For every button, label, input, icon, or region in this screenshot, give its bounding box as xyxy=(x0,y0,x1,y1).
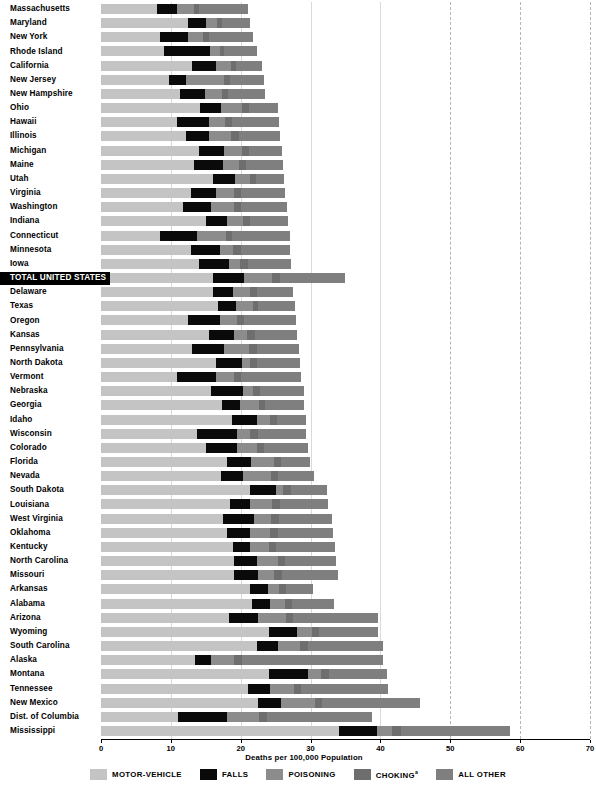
bar-segment-all-other xyxy=(241,245,291,255)
bar-segment-all-other xyxy=(230,75,264,85)
bar-segment-all-other xyxy=(285,556,336,566)
bar-segment-choking xyxy=(253,386,261,396)
category-label-row: Maine xyxy=(0,158,99,172)
x-axis-title-text: Deaths per 100,000 Population xyxy=(245,753,362,762)
bar-segment-falls xyxy=(209,330,234,340)
legend-swatch xyxy=(436,769,453,780)
category-label-row: South Dakota xyxy=(0,483,99,497)
bar-row xyxy=(101,2,590,16)
bar-segment-all-other xyxy=(258,301,295,311)
bar-segment-falls xyxy=(216,358,242,368)
bar-segment-choking xyxy=(231,131,239,141)
bar-segment-falls xyxy=(227,528,250,538)
bar-segment-choking xyxy=(234,372,241,382)
category-label: Virginia xyxy=(0,188,41,198)
bar-segment-poisoning xyxy=(216,188,235,198)
bar-segment-all-other xyxy=(279,514,331,524)
category-label-row: Oklahoma xyxy=(0,526,99,540)
bar-segment-falls xyxy=(191,188,215,198)
bar-segment-poisoning xyxy=(243,386,253,396)
bar-segment-falls xyxy=(227,457,251,467)
stacked-bar xyxy=(101,117,279,127)
tick-mark-60 xyxy=(520,740,521,743)
bar-segment-all-other xyxy=(267,712,372,722)
legend-label: POISONING xyxy=(288,770,335,779)
category-label-row: Nebraska xyxy=(0,384,99,398)
category-label-row: Virginia xyxy=(0,186,99,200)
bar-segment-motor-vehicle xyxy=(101,287,213,297)
bar-segment-choking xyxy=(239,160,246,170)
category-label-row: Mississippi xyxy=(0,724,99,738)
bar-segment-motor-vehicle xyxy=(101,499,230,509)
bar-row xyxy=(101,625,590,639)
stacked-bar xyxy=(101,301,295,311)
bar-segment-poisoning xyxy=(188,32,203,42)
category-label: Minnesota xyxy=(0,245,51,255)
category-label: Alaska xyxy=(0,655,37,665)
bar-segment-falls xyxy=(222,400,240,410)
bar-segment-falls xyxy=(232,415,258,425)
bar-segment-motor-vehicle xyxy=(101,259,199,269)
category-label-row: Arizona xyxy=(0,611,99,625)
bar-segment-motor-vehicle xyxy=(101,712,178,722)
bar-segment-poisoning xyxy=(297,627,312,637)
stacked-bar xyxy=(101,32,253,42)
bar-segment-poisoning xyxy=(186,75,224,85)
bar-segment-motor-vehicle xyxy=(101,216,206,226)
bar-segment-all-other xyxy=(280,499,328,509)
bar-row xyxy=(101,427,590,441)
stacked-bar xyxy=(101,75,264,85)
category-label: Tennessee xyxy=(0,684,53,694)
bar-segment-poisoning xyxy=(237,443,258,453)
legend-item: ALL OTHER xyxy=(436,769,506,780)
stacked-bar xyxy=(101,726,510,736)
category-label-row: New Jersey xyxy=(0,73,99,87)
stacked-bar xyxy=(101,415,306,425)
bar-segment-falls xyxy=(269,627,297,637)
bar-segment-falls xyxy=(206,216,228,226)
tick-mark-70 xyxy=(590,740,591,743)
bar-segment-falls xyxy=(200,103,221,113)
bar-segment-motor-vehicle xyxy=(101,75,169,85)
bar-row xyxy=(101,455,590,469)
tick-mark-30 xyxy=(311,740,312,743)
bar-segment-all-other xyxy=(291,485,327,495)
category-label-row: TOTAL UNITED STATES xyxy=(0,271,99,285)
bar-segment-motor-vehicle xyxy=(101,146,199,156)
bar-rows xyxy=(101,2,590,738)
stacked-bar xyxy=(101,669,387,679)
category-label-row: Tennessee xyxy=(0,682,99,696)
stacked-bar xyxy=(101,259,291,269)
bar-segment-motor-vehicle xyxy=(101,599,252,609)
stacked-bar xyxy=(101,556,336,566)
bar-segment-choking xyxy=(321,669,329,679)
bar-segment-poisoning xyxy=(254,514,271,524)
legend-item: MOTOR-VEHICLE xyxy=(90,769,182,780)
bar-segment-falls xyxy=(213,287,233,297)
bar-segment-falls xyxy=(178,712,227,722)
category-label: Utah xyxy=(0,174,29,184)
category-label-row: Ohio xyxy=(0,101,99,115)
bar-segment-all-other xyxy=(255,330,298,340)
bar-segment-poisoning xyxy=(377,726,392,736)
bar-segment-poisoning xyxy=(250,499,272,509)
bar-segment-motor-vehicle xyxy=(101,103,200,113)
category-label-row: Indiana xyxy=(0,214,99,228)
bar-segment-all-other xyxy=(256,174,284,184)
bar-segment-falls xyxy=(197,429,236,439)
bar-row xyxy=(101,497,590,511)
bar-segment-choking xyxy=(269,542,276,552)
bar-row xyxy=(101,229,590,243)
category-label-row: North Carolina xyxy=(0,554,99,568)
category-label-row: Kentucky xyxy=(0,540,99,554)
bar-segment-all-other xyxy=(244,315,296,325)
category-label: Massachusetts xyxy=(0,4,70,14)
stacked-bar xyxy=(101,273,345,283)
bar-segment-motor-vehicle xyxy=(101,542,233,552)
bar-row xyxy=(101,16,590,30)
bar-segment-poisoning xyxy=(257,556,279,566)
bar-row xyxy=(101,611,590,625)
stacked-bar xyxy=(101,146,282,156)
category-label: New Hampshire xyxy=(0,89,73,99)
bar-segment-poisoning xyxy=(221,103,242,113)
